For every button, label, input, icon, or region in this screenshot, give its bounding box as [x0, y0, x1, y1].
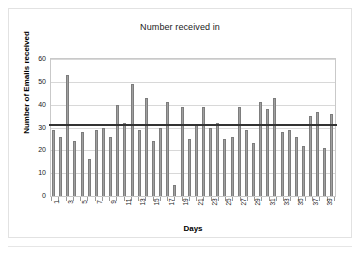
y-tick-label: 40: [38, 100, 46, 107]
x-tick-label-slot: 5: [80, 201, 83, 221]
bar: [81, 132, 84, 196]
bar: [95, 130, 98, 196]
x-tick-label-slot: 37: [310, 201, 313, 221]
x-tick-label-slot: 39: [325, 201, 328, 221]
bar: [166, 102, 169, 196]
y-tick-label: 10: [38, 169, 46, 176]
y-tick-label: 20: [38, 146, 46, 153]
x-tick-label-slot: 21: [195, 201, 198, 221]
bar: [252, 143, 255, 196]
x-tick-label-slot: [332, 201, 335, 221]
y-axis-tick-labels: 0102030405060: [28, 58, 48, 197]
x-tick-label-slot: [130, 201, 133, 221]
chart-title: Number received in: [0, 22, 360, 32]
x-tick-label-slot: 15: [152, 201, 155, 221]
bar: [195, 125, 198, 196]
x-tick-label-slot: 31: [267, 201, 270, 221]
bar: [159, 128, 162, 197]
x-tick-label-slot: 33: [282, 201, 285, 221]
bar-series: [51, 59, 335, 196]
y-tick-label: 50: [38, 77, 46, 84]
bar: [52, 130, 55, 196]
x-tick-label-slot: [173, 201, 176, 221]
bar: [59, 137, 62, 196]
bar: [288, 130, 291, 196]
bar: [281, 132, 284, 196]
bar: [216, 123, 219, 196]
chart-bottom-rule: [8, 246, 352, 247]
x-tick-label-slot: [87, 201, 90, 221]
bar: [88, 159, 91, 196]
bar: [309, 116, 312, 196]
x-tick-label-slot: [145, 201, 148, 221]
x-tick-label-slot: 9: [109, 201, 112, 221]
bar: [152, 141, 155, 196]
bar: [266, 109, 269, 196]
bar: [116, 105, 119, 196]
bar: [323, 148, 326, 196]
x-tick-label-slot: 11: [123, 201, 126, 221]
bar: [238, 107, 241, 196]
x-tick-label-slot: 23: [209, 201, 212, 221]
bar: [245, 130, 248, 196]
bar: [145, 98, 148, 196]
x-tick-label-slot: 19: [181, 201, 184, 221]
bar: [273, 98, 276, 196]
y-tick-label: 30: [38, 123, 46, 130]
x-tick-label-slot: 3: [65, 201, 68, 221]
bar: [259, 102, 262, 196]
bar: [109, 137, 112, 196]
bar: [302, 146, 305, 196]
x-axis-tick-labels: 13579111315171921232527293133353739: [50, 201, 336, 221]
bar: [73, 141, 76, 196]
x-tick-label-slot: 13: [137, 201, 140, 221]
x-tick-label-slot: [188, 201, 191, 221]
x-tick-label-slot: [58, 201, 61, 221]
bar: [131, 84, 134, 196]
bar: [102, 128, 105, 197]
y-tick-label: 0: [42, 192, 46, 199]
x-tick-label-slot: 25: [224, 201, 227, 221]
x-tick-label-slot: 7: [94, 201, 97, 221]
x-tick-label-slot: [73, 201, 76, 221]
bar: [231, 137, 234, 196]
x-tick-label-slot: [260, 201, 263, 221]
bar: [188, 139, 191, 196]
x-tick-label-slot: [159, 201, 162, 221]
x-tick-label-slot: [217, 201, 220, 221]
x-axis-title: Days: [50, 224, 336, 233]
plot-area: [50, 58, 336, 197]
x-tick-label-slot: [318, 201, 321, 221]
bar: [138, 130, 141, 196]
x-tick-label-slot: [303, 201, 306, 221]
x-tick-label-slot: 1: [51, 201, 54, 221]
x-tick-label-slot: [289, 201, 292, 221]
bar: [173, 185, 176, 196]
x-tick-label-slot: [116, 201, 119, 221]
x-tick-label-slot: 29: [253, 201, 256, 221]
mean-reference-line: [49, 124, 337, 126]
bar: [223, 139, 226, 196]
y-tick-label: 60: [38, 55, 46, 62]
x-tick-label-slot: [101, 201, 104, 221]
bar: [181, 107, 184, 196]
chart-figure: Number received in Number of Emails rece…: [0, 0, 360, 255]
x-tick-label-slot: 27: [238, 201, 241, 221]
bar: [209, 128, 212, 197]
x-tick-label-slot: [202, 201, 205, 221]
x-tick-label-slot: 17: [166, 201, 169, 221]
bar: [202, 107, 205, 196]
x-tick-label-slot: 35: [296, 201, 299, 221]
x-tick-label-slot: [245, 201, 248, 221]
x-tick-label-slot: [231, 201, 234, 221]
bar: [295, 137, 298, 196]
bar: [66, 75, 69, 196]
x-tick-label-slot: [274, 201, 277, 221]
bar: [123, 123, 126, 196]
